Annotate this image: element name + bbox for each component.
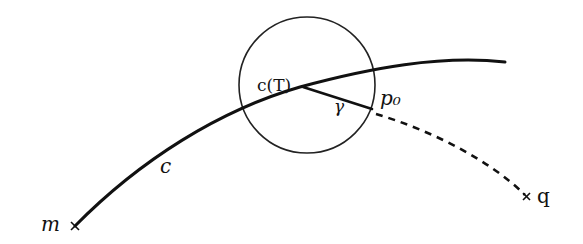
diagram-canvas [0,0,583,244]
end-point-marker [523,193,530,200]
start-point-marker [71,222,79,230]
label-curve-c: c [160,156,171,176]
dashed-path-to-q [376,114,525,195]
label-curve-point: c(T) [257,77,291,94]
label-point-p0: p₀ [380,88,401,108]
label-start-m: m [41,214,60,234]
label-end-q: q [537,186,550,206]
label-segment-gamma: γ [334,98,344,115]
